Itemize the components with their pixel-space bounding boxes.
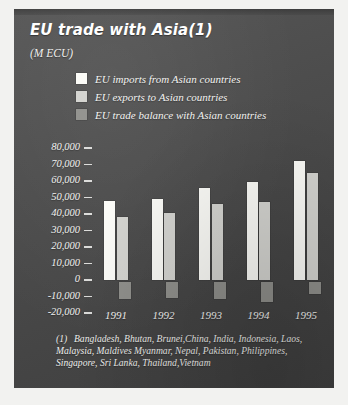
chart-panel: EU trade with Asia(1) (M ECU) EU imports… <box>14 9 334 388</box>
y-axis-tick-label: 50,000 <box>24 191 80 202</box>
y-axis-tick-mark <box>84 213 92 215</box>
y-axis-tick-label: 0 <box>24 273 80 284</box>
bar-trade-balance <box>166 282 178 298</box>
x-axis-tick-label: 1995 <box>284 309 328 321</box>
y-axis-tick-mark <box>84 263 92 265</box>
y-axis-tick-mark <box>84 279 92 281</box>
bar-exports <box>117 217 128 280</box>
bar-imports <box>199 188 210 280</box>
bar-trade-balance <box>119 282 131 299</box>
bar-exports <box>212 204 223 280</box>
x-axis-tick-label: 1991 <box>94 309 138 321</box>
y-axis-tick-label: -20,000 <box>24 306 80 317</box>
bar-trade-balance <box>309 282 321 294</box>
y-axis-tick-mark <box>84 164 92 166</box>
x-axis-tick-label: 1992 <box>142 309 186 321</box>
plot-area: 80,00070,00060,00050,00040,00030,00020,0… <box>14 9 334 388</box>
bar-imports <box>152 199 163 280</box>
chart-figure: EU trade with Asia(1) (M ECU) EU imports… <box>0 0 348 405</box>
y-axis-tick-label: 20,000 <box>24 240 80 251</box>
x-axis-tick-label: 1993 <box>189 309 233 321</box>
y-axis-tick-mark <box>84 312 92 314</box>
bar-imports <box>247 182 258 280</box>
chart-footnote: (1) Bangladesh, Bhutan, Brunei,China, In… <box>56 333 324 370</box>
y-axis-tick-label: -10,000 <box>24 290 80 301</box>
bar-exports <box>307 173 318 280</box>
y-axis-tick-mark <box>84 296 92 298</box>
y-axis-tick-label: 40,000 <box>24 207 80 218</box>
bar-trade-balance <box>261 282 273 302</box>
footnote-marker: (1) <box>56 333 67 345</box>
x-axis-tick-label: 1994 <box>237 309 281 321</box>
y-axis-tick-mark <box>84 180 92 182</box>
bar-imports <box>104 201 115 280</box>
bar-exports <box>164 213 175 280</box>
y-axis-tick-mark <box>84 230 92 232</box>
y-axis-tick-label: 80,000 <box>24 141 80 152</box>
footnote-text: Bangladesh, Bhutan, Brunei,China, India,… <box>56 333 302 368</box>
bar-imports <box>294 161 305 280</box>
y-axis-tick-label: 30,000 <box>24 224 80 235</box>
bar-exports <box>259 202 270 280</box>
y-axis-tick-label: 60,000 <box>24 174 80 185</box>
y-axis-tick-mark <box>84 197 92 199</box>
y-axis-tick-mark <box>84 147 92 149</box>
y-axis-tick-label: 10,000 <box>24 257 80 268</box>
y-axis-tick-label: 70,000 <box>24 158 80 169</box>
bar-trade-balance <box>214 282 226 299</box>
y-axis-tick-mark <box>84 246 92 248</box>
